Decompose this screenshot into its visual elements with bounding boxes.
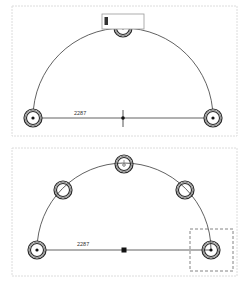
arc-path[interactable] bbox=[33, 28, 213, 118]
node-left[interactable] bbox=[28, 241, 46, 259]
center-square-marker[interactable] bbox=[122, 248, 127, 253]
overlay-input-box[interactable] bbox=[102, 14, 144, 29]
arc-path[interactable] bbox=[37, 163, 211, 250]
center-cross-marker[interactable] bbox=[121, 110, 125, 127]
node-left[interactable] bbox=[24, 109, 42, 127]
node-upper-right[interactable] bbox=[176, 181, 194, 199]
overlay-icon bbox=[105, 17, 109, 25]
diagram-canvas: 2287 bbox=[0, 0, 241, 281]
panel-bottom: 2287 bbox=[12, 148, 237, 276]
node-right[interactable] bbox=[202, 241, 220, 259]
node-right[interactable] bbox=[204, 109, 222, 127]
dimension-label: 2287 bbox=[74, 110, 86, 116]
dimension-label: 2287 bbox=[77, 241, 89, 247]
panel-top: 2287 bbox=[12, 6, 237, 136]
node-upper-left[interactable] bbox=[54, 181, 72, 199]
node-top[interactable] bbox=[115, 155, 133, 173]
